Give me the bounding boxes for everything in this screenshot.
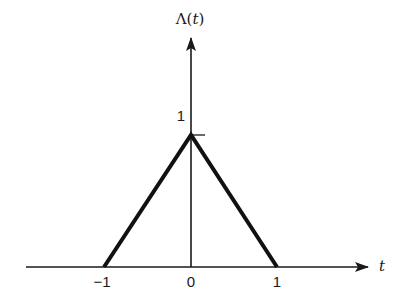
x-tick-label-0: 0 — [187, 273, 195, 290]
function-label: Λ(t) — [175, 10, 205, 28]
triangle-function-diagram: Λ(t) 1 −1 0 1 t — [0, 0, 403, 298]
x-tick-label-1: 1 — [273, 273, 281, 290]
peak-value-label: 1 — [177, 107, 185, 124]
x-axis-label: t — [379, 257, 386, 275]
x-tick-label-neg1: −1 — [93, 273, 110, 290]
